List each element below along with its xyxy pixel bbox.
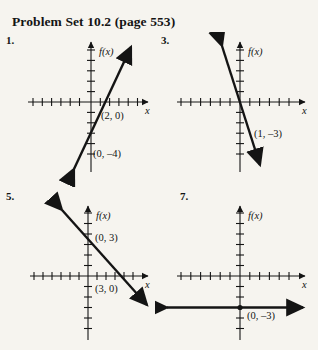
problem-3: 3. <box>155 32 314 187</box>
graph-1: f(x) x (2, 0) (0, –4) <box>0 32 159 187</box>
graph-5: f(x) x (0, 3) (3, 0) <box>0 188 159 348</box>
x-axis-name-1: x <box>144 105 150 116</box>
point-label-7-a: (0, –3) <box>247 310 275 322</box>
point-label-5-b: (3, 0) <box>95 283 118 295</box>
x-axis-name-7: x <box>301 279 307 290</box>
fx-label-7: f(x) <box>248 210 263 222</box>
x-axis-name-5: x <box>144 279 150 290</box>
point-label-1-a: (2, 0) <box>101 110 124 122</box>
graph-3: f(x) x (1, –3) <box>155 32 318 187</box>
plot-line-3 <box>222 46 260 165</box>
point-marker-7 <box>237 305 242 310</box>
fx-label-3: f(x) <box>248 46 263 58</box>
fx-label-5: f(x) <box>96 210 111 222</box>
graph-7: f(x) x (0, –3) <box>155 188 318 348</box>
problem-7: 7. <box>155 188 314 343</box>
point-label-1-b: (0, –4) <box>93 148 121 160</box>
point-label-5-a: (0, 3) <box>95 232 118 244</box>
x-axis-name-3: x <box>301 105 307 116</box>
point-label-3-a: (1, –3) <box>254 128 282 140</box>
problem-5: 5. <box>0 188 159 343</box>
textbook-page: Problem Set 10.2 (page 553) 1. <box>0 0 318 350</box>
problem-1: 1. <box>0 32 159 187</box>
fx-label-1: f(x) <box>99 46 114 58</box>
page-title: Problem Set 10.2 (page 553) <box>12 14 175 30</box>
